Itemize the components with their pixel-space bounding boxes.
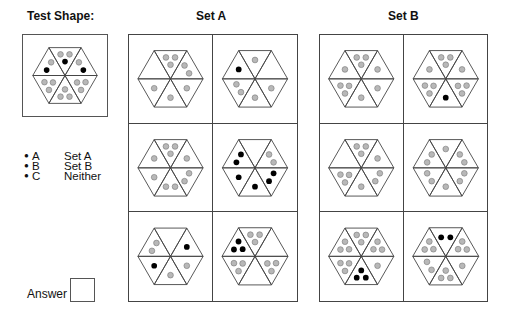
hexagon bbox=[129, 212, 212, 301]
hexagon bbox=[213, 212, 297, 301]
set-b-cell bbox=[404, 212, 488, 301]
set-a-cell bbox=[213, 35, 297, 124]
option-letter: C bbox=[32, 171, 64, 181]
test-shape-title: Test Shape: bbox=[27, 9, 94, 23]
bullet-icon: ● bbox=[24, 151, 32, 161]
hexagon bbox=[320, 212, 403, 301]
set-b-cell bbox=[320, 212, 404, 301]
set-b-cell bbox=[320, 124, 404, 213]
set-b-cell bbox=[404, 124, 488, 213]
answer-options: ●ASet A ●BSet B ●CNeither bbox=[24, 151, 101, 181]
set-a-cell bbox=[213, 124, 297, 213]
set-a-cell bbox=[129, 212, 213, 301]
answer-input[interactable] bbox=[70, 278, 95, 302]
hexagon bbox=[404, 124, 488, 212]
hexagon bbox=[213, 35, 297, 123]
option-c[interactable]: ●CNeither bbox=[24, 171, 101, 181]
hexagon bbox=[404, 35, 488, 123]
hexagon bbox=[404, 212, 488, 301]
set-b-title: Set B bbox=[388, 9, 419, 23]
set-a-cell bbox=[129, 124, 213, 213]
test-hexagon bbox=[23, 35, 107, 116]
test-shape-box bbox=[22, 34, 108, 117]
set-b-cell bbox=[320, 35, 404, 124]
answer-label: Answer bbox=[27, 287, 67, 301]
hexagon bbox=[213, 124, 297, 212]
hexagon bbox=[320, 124, 403, 212]
option-label: Neither bbox=[64, 171, 101, 181]
bullet-icon: ● bbox=[24, 161, 32, 171]
set-a-grid bbox=[128, 34, 298, 302]
set-a-title: Set A bbox=[196, 9, 226, 23]
hexagon bbox=[129, 124, 212, 212]
set-a-cell bbox=[213, 212, 297, 301]
set-b-grid bbox=[319, 34, 488, 302]
hexagon bbox=[320, 35, 403, 123]
set-b-cell bbox=[404, 35, 488, 124]
bullet-icon: ● bbox=[24, 171, 32, 181]
hexagon bbox=[129, 35, 212, 123]
set-a-cell bbox=[129, 35, 213, 124]
